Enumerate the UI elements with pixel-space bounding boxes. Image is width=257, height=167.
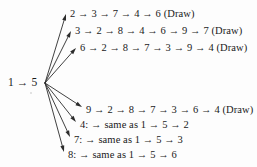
branch-label-6: 6 → 2 → 8 → 7 → 3 → 9 → 4 (Draw) [80, 42, 247, 54]
scan-speck [236, 110, 239, 112]
game-tree-figure: 1 → 5 2 → 3 → 7 → 4 → 6 (Draw) 3 → 2 → 8… [0, 0, 257, 167]
branch-label-9: 9 → 2 → 8 → 7 → 3 → 6 → 4 (Draw) [86, 104, 253, 116]
branch-label-8: 8: → same as 1 → 5 → 6 [68, 149, 177, 161]
branch-label-4: 4: → same as 1 → 5 → 2 [80, 119, 189, 131]
scan-speck [30, 92, 32, 94]
branch-label-3: 3 → 2 → 8 → 4 → 6 → 9 → 7 (Draw) [75, 25, 242, 37]
branch-label-7: 7: → same as 1 → 5 → 3 [74, 134, 183, 146]
branch-label-2: 2 → 3 → 7 → 4 → 6 (Draw) [70, 8, 195, 20]
root-node-label: 1 → 5 [8, 76, 37, 88]
